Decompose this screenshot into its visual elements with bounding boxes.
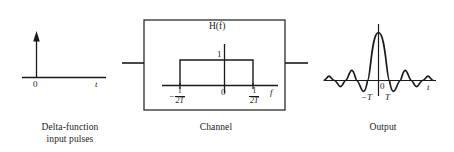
figure-container: 0 t Delta-function input pulses H(f) [0,0,454,152]
channel-amplitude-label: 1 [217,49,222,59]
right-cutoff-fraction: 1 2T [249,87,259,105]
right-cutoff-denominator: 2T [249,97,259,106]
panel-output: 0 −T T t Output [312,0,454,152]
ideal-lowpass-response-curve [180,60,253,86]
caption-channel: Channel [118,122,314,134]
output-sinc-plot [312,0,454,122]
left-cutoff-fraction: 1 2T [175,87,185,105]
caption-delta-line1: Delta-function [42,122,99,132]
output-origin-label: 0 [380,81,385,91]
delta-origin-label: 0 [33,79,38,89]
caption-channel-text: Channel [200,122,232,132]
caption-output-text: Output [370,122,397,132]
delta-x-axis-label: t [95,79,98,89]
right-cutoff-label: 1 2T [249,87,259,105]
left-cutoff-label: − 1 2T [169,87,185,105]
output-x-axis-label: t [427,82,430,92]
transfer-function-label: H(f) [209,21,225,31]
left-cutoff-denominator: 2T [175,97,185,106]
panel-channel: H(f) 1 0 f − 1 2T 1 2T Channel [118,0,314,152]
up-arrow-icon [33,31,40,42]
channel-origin-label: 0 [221,87,226,97]
channel-box [144,20,285,110]
caption-output: Output [312,122,454,134]
channel-f-axis-label: f [270,87,273,97]
channel-block-diagram [118,0,314,122]
output-left-zero-label: −T [361,92,372,102]
output-right-zero-label: T [385,92,390,102]
caption-delta-line2: input pulses [47,134,94,144]
